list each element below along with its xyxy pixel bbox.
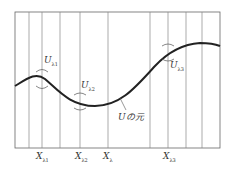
vertical-fibers (29, 12, 202, 148)
neighborhood-label-2: Uλ2 (81, 80, 95, 92)
neighborhood-label-1: Uλ1 (44, 55, 58, 67)
neighborhood-arcs (36, 44, 174, 110)
curve-label-pointer (120, 98, 126, 110)
x-label-3: Xλ3 (163, 151, 176, 163)
x-label-1: Xλ1 (36, 151, 49, 163)
neighborhood-label-3: Uλ3 (170, 60, 184, 72)
curve-label: Uの元 (118, 110, 144, 123)
x-label-lambda: Xλ (103, 151, 113, 163)
section-curve (15, 43, 220, 106)
diagram-canvas (0, 0, 233, 173)
x-label-2: Xλ2 (75, 151, 88, 163)
